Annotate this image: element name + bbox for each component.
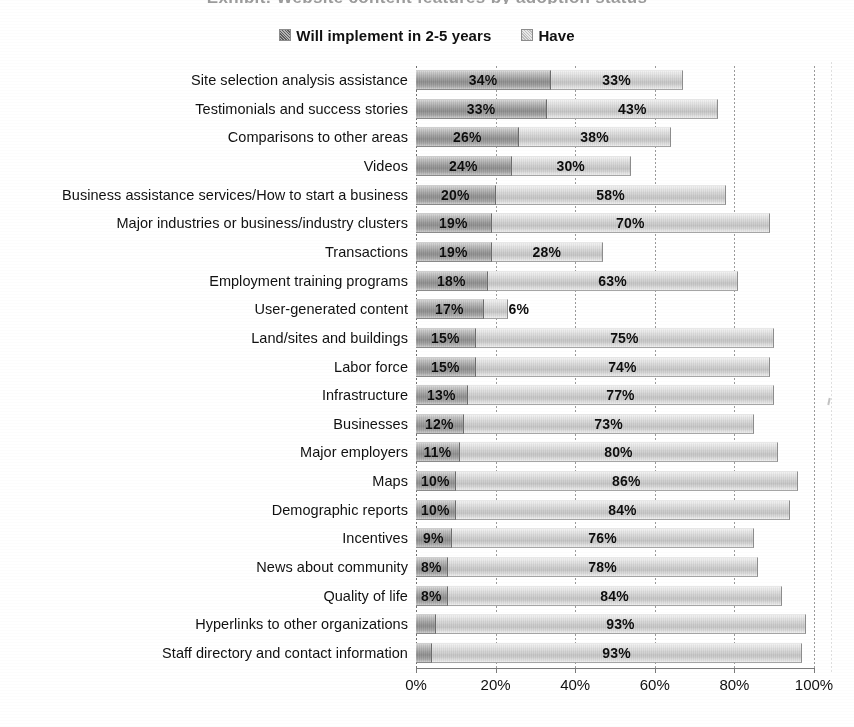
- bar-segment-have: 30%: [512, 156, 631, 176]
- category-label: Incentives: [0, 528, 408, 548]
- bar-row: Quality of life8%84%: [416, 586, 814, 606]
- bar-row: Hyperlinks to other organizations5%93%: [416, 614, 814, 634]
- category-label: Demographic reports: [0, 500, 408, 520]
- x-axis-labels: 0%20%40%60%80%100%: [416, 676, 814, 706]
- category-label: Businesses: [0, 414, 408, 434]
- bar-value-label: 20%: [441, 187, 470, 203]
- bar-value-label: 6%: [509, 301, 530, 317]
- bar-segment-will-implement: 10%: [416, 500, 456, 520]
- bar-segment-have: 75%: [476, 328, 775, 348]
- bar-row: Maps10%86%: [416, 471, 814, 491]
- bar-segment-will-implement: 34%: [416, 70, 551, 90]
- bar-row: Labor force15%74%: [416, 357, 814, 377]
- bar-value-label: 93%: [606, 616, 635, 632]
- bar-value-label: 28%: [533, 244, 562, 260]
- gridline-100: [814, 66, 815, 668]
- bar-value-label: 9%: [423, 530, 444, 546]
- bar-row: Incentives9%76%: [416, 528, 814, 548]
- bar-value-label: 17%: [435, 301, 464, 317]
- bar-value-label: 77%: [606, 387, 635, 403]
- bar-segment-will-implement: 15%: [416, 328, 476, 348]
- legend-item-have: Have: [521, 27, 574, 44]
- category-label: Maps: [0, 471, 408, 491]
- stacked-bar: 11%80%: [416, 442, 814, 462]
- bar-value-label: 43%: [618, 101, 647, 117]
- bar-segment-have: 38%: [519, 127, 670, 147]
- bar-value-label: 84%: [608, 502, 637, 518]
- category-label: Site selection analysis assistance: [0, 70, 408, 90]
- category-label: Testimonials and success stories: [0, 99, 408, 119]
- bar-row: News about community8%78%: [416, 557, 814, 577]
- cropped-title-text: Exhibit: Website content features by ado…: [0, 0, 854, 4]
- bar-value-label: 19%: [439, 244, 468, 260]
- category-label: Major employers: [0, 442, 408, 462]
- stacked-bar: 19%28%: [416, 242, 814, 262]
- bar-segment-will-implement: 5%: [416, 614, 436, 634]
- bar-value-label: 15%: [431, 330, 460, 346]
- bar-value-label: 10%: [421, 502, 450, 518]
- x-tick-label-100: 100%: [784, 676, 844, 693]
- bar-segment-will-implement: 18%: [416, 271, 488, 291]
- bar-value-label: 70%: [616, 215, 645, 231]
- bar-row: Site selection analysis assistance34%33%: [416, 70, 814, 90]
- bar-value-label: 75%: [610, 330, 639, 346]
- bar-value-label: 8%: [421, 588, 442, 604]
- stacked-bar: 19%70%: [416, 213, 814, 233]
- bar-segment-will-implement: 13%: [416, 385, 468, 405]
- x-tick-label-20: 20%: [466, 676, 526, 693]
- legend-swatch-light-icon: [521, 29, 533, 41]
- stacked-bar: 33%43%: [416, 99, 814, 119]
- bar-value-label: 93%: [602, 645, 631, 661]
- stacked-bar: 17%6%: [416, 299, 814, 319]
- bar-segment-will-implement: 17%: [416, 299, 484, 319]
- bar-segment-have: 63%: [488, 271, 739, 291]
- bar-segment-will-implement: 24%: [416, 156, 512, 176]
- bar-value-label: 33%: [467, 101, 496, 117]
- bar-row: Transactions19%28%: [416, 242, 814, 262]
- category-label: Staff directory and contact information: [0, 643, 408, 663]
- legend-label-will-implement: Will implement in 2-5 years: [296, 27, 491, 44]
- category-label: Infrastructure: [0, 385, 408, 405]
- bar-value-label: 11%: [423, 444, 451, 460]
- bar-segment-have: 93%: [432, 643, 802, 663]
- bar-value-label: 58%: [596, 187, 625, 203]
- stacked-bar: 10%86%: [416, 471, 814, 491]
- category-label: Comparisons to other areas: [0, 127, 408, 147]
- bar-row: Demographic reports10%84%: [416, 500, 814, 520]
- bar-value-label: 19%: [439, 215, 468, 231]
- bar-value-label: 8%: [421, 559, 442, 575]
- bar-segment-will-implement: 26%: [416, 127, 519, 147]
- bar-segment-have: 70%: [492, 213, 771, 233]
- bar-segment-have: 58%: [496, 185, 727, 205]
- bar-row: Employment training programs18%63%: [416, 271, 814, 291]
- bar-segment-will-implement: 19%: [416, 213, 492, 233]
- bar-segment-have: 93%: [436, 614, 806, 634]
- stacked-bar: 8%78%: [416, 557, 814, 577]
- bar-value-label: 84%: [600, 588, 629, 604]
- bar-value-label: 18%: [437, 273, 466, 289]
- bar-segment-have: 78%: [448, 557, 758, 577]
- bar-value-label: 15%: [431, 359, 460, 375]
- bar-value-label: 74%: [608, 359, 637, 375]
- bar-value-label: 26%: [453, 129, 482, 145]
- bar-row: Comparisons to other areas26%38%: [416, 127, 814, 147]
- legend-swatch-dark-icon: [279, 29, 291, 41]
- stacked-bar: 26%38%: [416, 127, 814, 147]
- bar-segment-have: 84%: [448, 586, 782, 606]
- bar-value-label: 76%: [588, 530, 617, 546]
- bar-value-label: 24%: [449, 158, 478, 174]
- bar-segment-have: 28%: [492, 242, 603, 262]
- stacked-bar: 15%74%: [416, 357, 814, 377]
- bar-segment-have: 86%: [456, 471, 798, 491]
- category-label: Quality of life: [0, 586, 408, 606]
- stacked-bar: 5%93%: [416, 614, 814, 634]
- axis-tick-100: [814, 668, 815, 673]
- bar-value-label: 38%: [580, 129, 609, 145]
- x-tick-label-40: 40%: [545, 676, 605, 693]
- x-tick-label-60: 60%: [625, 676, 685, 693]
- bar-segment-have: 43%: [547, 99, 718, 119]
- bar-segment-have: 76%: [452, 528, 754, 548]
- x-axis-baseline: [416, 668, 814, 669]
- stacked-bar: 34%33%: [416, 70, 814, 90]
- x-tick-label-0: 0%: [386, 676, 446, 693]
